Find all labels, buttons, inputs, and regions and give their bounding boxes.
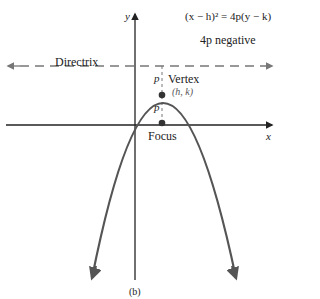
- focus-label: Focus: [148, 129, 177, 144]
- y-axis-label: y: [125, 10, 130, 22]
- vertex-label: Vertex: [168, 72, 199, 87]
- p-lower-label: p: [154, 101, 160, 113]
- vertex-coords-label: (h, k): [172, 86, 193, 97]
- focus-point: [159, 120, 166, 127]
- condition-label: 4p negative: [200, 33, 256, 48]
- p-upper-label: p: [154, 72, 160, 84]
- directrix-label: Directrix: [55, 55, 98, 70]
- x-axis-label: x: [266, 130, 271, 142]
- caption: (b): [129, 286, 141, 297]
- vertex-point: [159, 92, 166, 99]
- equation-label: (x − h)² = 4p(y − k): [185, 10, 271, 22]
